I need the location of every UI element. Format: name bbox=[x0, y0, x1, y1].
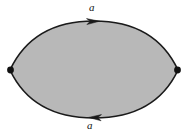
right-vertex-dot bbox=[174, 67, 181, 74]
bottom-edge-label: a bbox=[87, 120, 93, 131]
top-edge-label: a bbox=[89, 2, 95, 13]
bigon-figure bbox=[0, 0, 190, 134]
bigon-diagram: a a bbox=[0, 0, 190, 134]
left-vertex-dot bbox=[7, 67, 14, 74]
bigon-region bbox=[10, 21, 178, 118]
